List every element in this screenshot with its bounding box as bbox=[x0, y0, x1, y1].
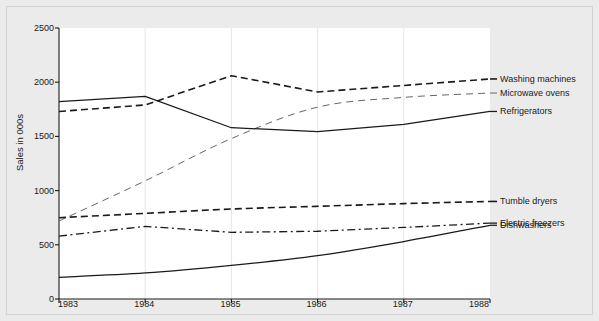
series-line bbox=[59, 96, 490, 131]
series-line bbox=[59, 201, 490, 217]
chart-lines bbox=[0, 0, 599, 321]
x-axis-tick-label: 1988 bbox=[469, 299, 489, 309]
x-axis-tick-label: 1987 bbox=[393, 299, 413, 309]
series-line bbox=[59, 76, 490, 112]
series-line bbox=[59, 223, 490, 236]
series-line bbox=[59, 93, 490, 221]
chart-figure: 05001000150020002500 Sales in 000s Washi… bbox=[0, 0, 599, 321]
x-axis-tick-label: 1983 bbox=[58, 299, 78, 309]
x-axis-tick-label: 1986 bbox=[307, 299, 327, 309]
x-axis-tick-label: 1984 bbox=[134, 299, 154, 309]
series-line bbox=[59, 225, 490, 277]
x-axis-tick-label: 1985 bbox=[220, 299, 240, 309]
